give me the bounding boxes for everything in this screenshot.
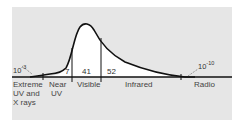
right-exponent-label: 10-10 [198, 60, 214, 71]
left-exponent-label: 10-3 [13, 64, 26, 75]
region-label-extreme-uv: Extreme UV and X rays [13, 80, 43, 107]
region-label-near-uv: Near UV [49, 80, 66, 98]
near-uv-percent: 7 [65, 67, 69, 76]
visible-percent: 41 [82, 67, 91, 76]
region-label-infrared: Infrared [125, 80, 153, 89]
region-label-radio: Radio [194, 80, 215, 89]
infrared-percent: 52 [107, 67, 116, 76]
leader-right [188, 69, 198, 76]
region-label-visible: Visible [77, 80, 100, 89]
